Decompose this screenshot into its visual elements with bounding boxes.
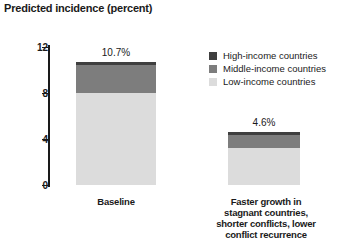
bar-segment-low-income-countries [228, 148, 300, 185]
category-label: Baseline [60, 196, 172, 207]
plot-area: 12840 BaselineFaster growth instagnant c… [0, 0, 339, 248]
legend-swatch-icon [209, 65, 217, 73]
legend-item: Middle-income countries [209, 62, 326, 75]
bar-segment-middle-income-countries [228, 135, 300, 148]
bar-scenario [228, 132, 300, 185]
category-label-line: Baseline [60, 196, 172, 207]
legend-item: High-income countries [209, 49, 326, 62]
bar-baseline [76, 62, 156, 185]
bar-segment-low-income-countries [76, 93, 156, 185]
category-label-line: shorter conflicts, lower [196, 218, 336, 229]
bar-segment-middle-income-countries [76, 65, 156, 93]
category-label-line: stagnant countries, [196, 207, 336, 218]
chart-container: Predicted incidence (percent) 12840 Base… [0, 0, 339, 248]
legend-label: Middle-income countries [223, 63, 326, 74]
category-label: Faster growth instagnant countries,short… [196, 196, 336, 240]
y-axis-tick-label: 8 [10, 88, 48, 99]
bar-value-label: 4.6% [228, 117, 300, 128]
chart-legend: High-income countriesMiddle-income count… [209, 49, 326, 88]
legend-swatch-icon [209, 78, 217, 86]
legend-label: High-income countries [223, 50, 318, 61]
y-axis-tick-label: 12 [10, 42, 48, 53]
y-axis-tick-label: 4 [10, 134, 48, 145]
y-axis-tick-label: 0 [10, 180, 48, 191]
bar-value-label: 10.7% [76, 47, 156, 58]
category-label-line: Faster growth in [196, 196, 336, 207]
legend-label: Low-income countries [223, 76, 315, 87]
category-label-line: conflict recurrence [196, 229, 336, 240]
legend-item: Low-income countries [209, 75, 326, 88]
y-axis-line [48, 45, 50, 187]
legend-swatch-icon [209, 52, 217, 60]
